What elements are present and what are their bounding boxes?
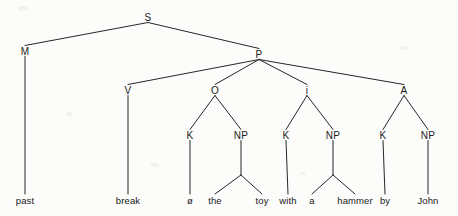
- tree-leaf-the: the: [208, 195, 222, 206]
- tree-node-o: O: [211, 85, 219, 96]
- tree-node-a: A: [401, 85, 408, 96]
- tree-node-k-2: K: [283, 130, 290, 141]
- scan-speck: [18, 6, 28, 11]
- tree-leaf-break: break: [116, 195, 140, 206]
- edge-group: [25, 23, 428, 195]
- tree-leaf-a: a: [309, 195, 314, 206]
- tree-node-i: i: [306, 85, 308, 96]
- tree-node-v: V: [125, 85, 132, 96]
- tree-leaf-with: with: [279, 195, 296, 206]
- tree-leaf-past: past: [16, 195, 34, 206]
- tree-leaf-by: by: [380, 195, 390, 206]
- syntax-tree-figure: S M P V O i A K NP K NP K NP past break …: [0, 0, 458, 216]
- tree-node-np-3: NP: [421, 130, 435, 141]
- tree-leaf-john: John: [417, 195, 438, 206]
- tree-node-m: M: [21, 46, 30, 57]
- tree-node-k-1: K: [187, 130, 194, 141]
- tree-node-s: S: [145, 12, 152, 23]
- scan-speck: [66, 112, 73, 116]
- tree-node-k-3: K: [380, 130, 387, 141]
- scan-speck: [150, 163, 159, 167]
- tree-node-np-2: NP: [326, 130, 340, 141]
- tree-leaf-zero: ø: [187, 195, 193, 206]
- tree-node-np-1: NP: [234, 130, 248, 141]
- scan-speck: [300, 172, 306, 175]
- tree-edges-layer: [0, 0, 458, 216]
- tree-leaf-hammer: hammer: [337, 195, 372, 206]
- tree-node-p: P: [256, 49, 263, 60]
- scan-speck: [400, 46, 408, 50]
- tree-leaf-toy: toy: [256, 195, 269, 206]
